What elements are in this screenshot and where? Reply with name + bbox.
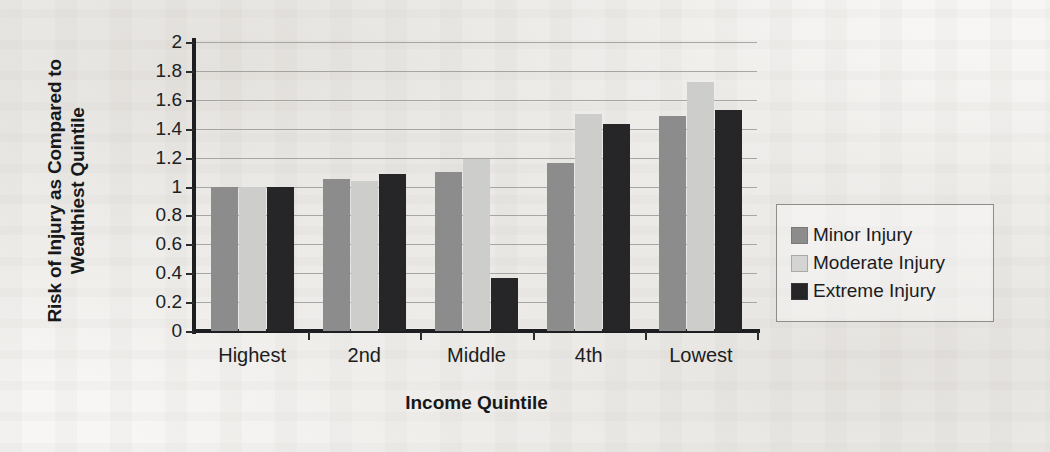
- legend-swatch-icon: [791, 255, 808, 272]
- x-axis-tick-mark: [420, 331, 422, 340]
- y-axis-tick-mark: [186, 187, 194, 189]
- x-axis-tick-mark: [645, 331, 647, 340]
- y-axis-tick-mark: [186, 100, 194, 102]
- bar: [435, 172, 462, 331]
- plot-area: [196, 42, 757, 331]
- legend-label: Extreme Injury: [813, 280, 935, 302]
- y-axis-tick-mark: [186, 71, 194, 73]
- x-axis-tick-mark: [757, 331, 759, 340]
- y-axis-tick-label: 0: [136, 320, 182, 342]
- y-axis-tick-mark: [186, 331, 194, 333]
- bar: [603, 124, 630, 331]
- bar: [239, 187, 266, 332]
- legend-swatch-icon: [791, 227, 808, 244]
- bar: [575, 114, 602, 331]
- x-axis-tick-mark: [533, 331, 535, 340]
- bar: [267, 187, 294, 332]
- y-axis-title-line-1: Risk of Injury as Compared to: [44, 26, 67, 356]
- x-axis-title: Income Quintile: [196, 392, 757, 414]
- legend-item: Extreme Injury: [791, 280, 983, 302]
- y-axis-tick-label: 0.6: [136, 233, 182, 255]
- y-axis-tick-mark: [186, 302, 194, 304]
- bar: [211, 187, 238, 332]
- y-axis-title: Risk of Injury as Compared to Wealthiest…: [44, 26, 90, 356]
- bar: [715, 110, 742, 331]
- x-axis-tick-label: Lowest: [631, 344, 771, 367]
- y-axis-tick-labels: 21.81.61.41.210.80.60.40.20: [130, 0, 182, 452]
- bar: [659, 116, 686, 331]
- y-axis-title-line-2: Wealthiest Quintile: [67, 26, 90, 356]
- bar-group: [533, 42, 645, 331]
- chart-figure: Risk of Injury as Compared to Wealthiest…: [0, 0, 1050, 452]
- legend-item: Minor Injury: [791, 224, 983, 246]
- y-axis-tick-mark: [186, 215, 194, 217]
- y-axis-tick-mark: [186, 244, 194, 246]
- y-axis-tick-label: 0.2: [136, 291, 182, 313]
- legend-label: Minor Injury: [813, 224, 912, 246]
- y-axis-tick-mark: [186, 158, 194, 160]
- bar: [463, 159, 490, 331]
- y-axis-tick-mark: [186, 273, 194, 275]
- legend-swatch-icon: [791, 283, 808, 300]
- y-axis-tick-label: 0.8: [136, 204, 182, 226]
- x-axis-tick-mark: [308, 331, 310, 340]
- bar: [547, 163, 574, 331]
- y-axis-tick-label: 1.2: [136, 147, 182, 169]
- y-axis-tick-label: 0.4: [136, 262, 182, 284]
- legend-label: Moderate Injury: [813, 252, 945, 274]
- y-axis-tick-label: 1: [136, 176, 182, 198]
- bar: [491, 278, 518, 331]
- y-axis-tick-label: 1.6: [136, 89, 182, 111]
- bar-group: [420, 42, 532, 331]
- bar: [323, 179, 350, 331]
- y-axis-tick-mark: [186, 129, 194, 131]
- bar: [379, 174, 406, 332]
- bar-group: [645, 42, 757, 331]
- legend-item: Moderate Injury: [791, 252, 983, 274]
- y-axis-tick-label: 1.8: [136, 60, 182, 82]
- bar: [351, 181, 378, 331]
- legend: Minor InjuryModerate InjuryExtreme Injur…: [776, 204, 994, 322]
- y-axis-tick-label: 1.4: [136, 118, 182, 140]
- y-axis-tick-label: 2: [136, 31, 182, 53]
- bar-group: [196, 42, 308, 331]
- bar: [687, 82, 714, 331]
- y-axis-tick-mark: [186, 42, 194, 44]
- bar-group: [308, 42, 420, 331]
